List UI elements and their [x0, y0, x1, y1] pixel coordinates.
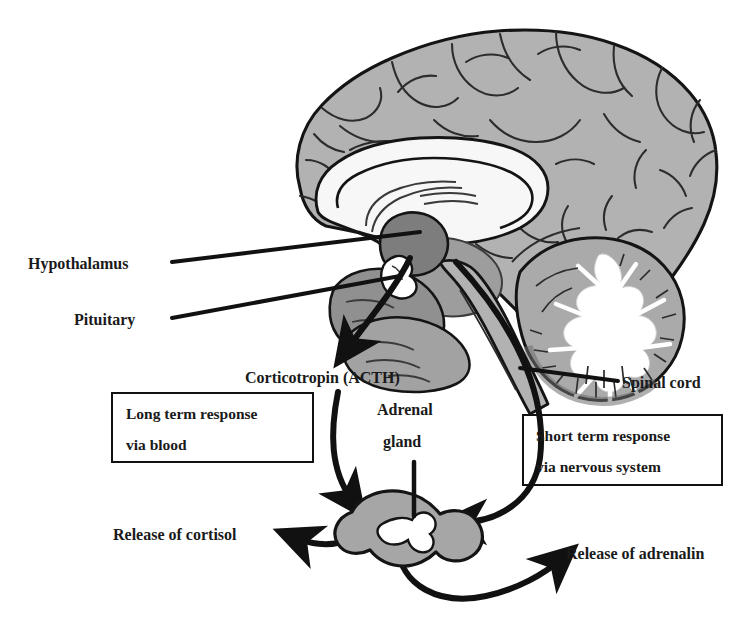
long-term-response-line1: Long term response [126, 399, 257, 429]
short-term-response-line1: Short term response [536, 421, 670, 451]
short-term-response-line2: via nervous system [536, 452, 661, 482]
label-corticotropin-acth: Corticotropin (ACTH) [245, 366, 400, 391]
label-spinal-cord: Spinal cord [622, 371, 701, 396]
label-adrenal-gland-line2: gland [383, 430, 421, 455]
label-hypothalamus: Hypothalamus [28, 252, 128, 277]
stress-response-diagram: Hypothalamus Pituitary Corticotropin (AC… [0, 0, 748, 626]
arrow-acth-to-adrenal [333, 392, 352, 500]
long-term-response-line2: via blood [126, 430, 187, 460]
label-pituitary: Pituitary [74, 308, 135, 333]
label-adrenal-gland-line1: Adrenal [377, 398, 433, 423]
brain-illustration [297, 30, 717, 414]
label-release-of-adrenalin: Release of adrenalin [566, 542, 704, 567]
adrenal-gland-illustration [335, 462, 482, 566]
label-release-of-cortisol: Release of cortisol [113, 523, 237, 548]
